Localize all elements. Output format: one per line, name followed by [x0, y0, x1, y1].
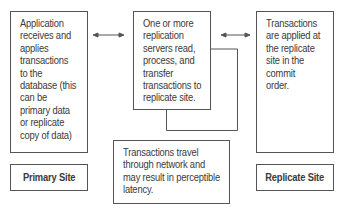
primary-site-description: Application receives and applies transac… — [20, 18, 82, 142]
primary-site-label: Primary Site — [10, 164, 88, 191]
bidirectional-arrow-right — [221, 33, 250, 37]
replicate-site-description: Transactions are applied at the replicat… — [266, 18, 328, 92]
replicate-site-box: Transactions are applied at the replicat… — [256, 11, 334, 153]
bidirectional-arrow-left — [93, 33, 124, 37]
primary-site-box: Application receives and applies transac… — [10, 11, 88, 153]
primary-site-label-text: Primary Site — [23, 172, 75, 183]
network-note-description: Transactions travel through network and … — [123, 147, 221, 197]
replicate-site-label: Replicate Site — [256, 164, 334, 191]
network-note-box: Transactions travel through network and … — [113, 140, 230, 204]
replication-server-description: One or more replication servers read, pr… — [143, 18, 205, 105]
replicate-site-label-text: Replicate Site — [266, 172, 325, 183]
replication-server-box: One or more replication servers read, pr… — [133, 11, 211, 110]
